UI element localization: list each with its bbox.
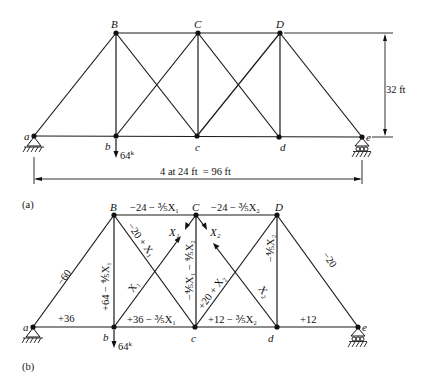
caption-a: (a)	[22, 199, 34, 211]
force-BC: −24 − ⅗X₁	[130, 202, 179, 213]
truss-a: a b c d e B C D 64	[22, 18, 406, 211]
node-C-label: C	[194, 18, 202, 30]
node-B-label: B	[111, 18, 118, 30]
member-De	[280, 33, 362, 137]
force-ab: +36	[58, 313, 74, 324]
caption-b: (b)	[22, 361, 35, 373]
node-a-label: a	[24, 130, 30, 142]
load-label: 64k	[120, 149, 135, 161]
node-D-label: D	[275, 18, 284, 30]
redundant-x1-label: X₁	[168, 226, 180, 238]
load-arrow-icon	[114, 139, 119, 158]
redundant-x2-label: X₂	[209, 226, 221, 238]
height-dim-label: 32 ft	[386, 84, 406, 95]
height-dimension	[284, 33, 393, 137]
force-Dd: −⅘X₂	[265, 234, 276, 262]
force-De: −20	[320, 250, 339, 270]
node-D-label: D	[274, 201, 283, 213]
member-aB	[34, 33, 116, 136]
load-label: 64k	[118, 340, 133, 352]
node-b-label: b	[103, 331, 109, 343]
span-dim-label: 4 at 24 ft = 96 ft	[160, 166, 231, 177]
node-c-label: c	[191, 332, 196, 344]
truss-figure: a b c d e B C D 64	[0, 0, 428, 377]
force-Cd: X₂	[256, 284, 272, 300]
node-b-label: b	[105, 140, 111, 152]
force-CD: −24 − ⅗X₂	[211, 202, 260, 213]
force-Bb: +64 − ⅘X₁	[100, 262, 111, 311]
node-d-label: d	[280, 141, 286, 153]
force-aB: −60	[55, 267, 74, 287]
node-e-label: e	[362, 321, 367, 333]
node-e-label: e	[366, 131, 371, 143]
member-De	[277, 215, 358, 327]
node-d-label: d	[268, 332, 274, 344]
force-bc: +36 − ⅗X₁	[127, 314, 176, 325]
force-cD: +20 + X₂	[196, 273, 228, 311]
force-de: +12	[300, 314, 316, 325]
node-c-label: c	[195, 141, 200, 153]
node-C-label: C	[192, 201, 200, 213]
node-B-label: B	[110, 201, 117, 213]
load-arrow-icon	[112, 330, 117, 348]
force-cd: +12 − ⅗X₂	[208, 314, 257, 325]
force-bC: X₁	[126, 279, 142, 295]
force-Cc: −⅘X₁ − ⅘X₂	[184, 240, 195, 300]
node-a-label: a	[23, 321, 29, 333]
truss-b: a b c d e B C D 64k	[22, 201, 367, 373]
